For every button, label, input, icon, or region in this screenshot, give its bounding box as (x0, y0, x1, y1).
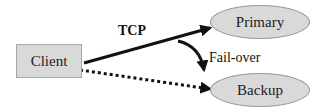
tcp-edge-label: TCP (118, 23, 146, 39)
client-label: Client (31, 53, 68, 70)
primary-label: Primary (236, 14, 284, 31)
failover-edge-label: Fail-over (209, 50, 260, 66)
failover-arrow (178, 41, 204, 70)
backup-node: Backup (210, 73, 310, 107)
diagram-canvas: Client Primary Backup TCP Fail-over (0, 0, 316, 112)
primary-node: Primary (210, 5, 310, 39)
backup-label: Backup (237, 82, 283, 99)
client-node: Client (16, 44, 82, 78)
dotted-arrow-to-backup (80, 70, 210, 89)
